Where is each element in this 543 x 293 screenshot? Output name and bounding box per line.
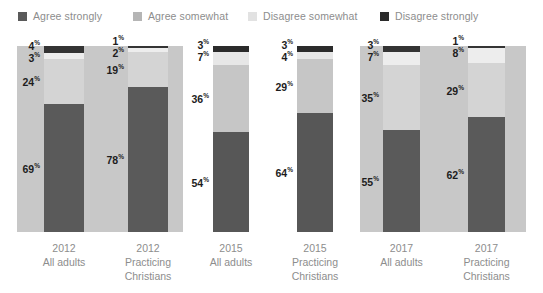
bar-caption-line: Christians [103,269,193,283]
stacked-bar[interactable] [44,46,84,232]
bar-caption: 2017All adults [357,241,447,269]
bar-caption-line: Practicing [442,255,532,269]
percent-sign: % [287,80,293,87]
segment-value: 64 [276,167,288,179]
segment-value: 69 [23,162,35,174]
segment-value-label: 4% [2,40,40,51]
segment-value-label: 36% [171,93,209,104]
legend-swatch-icon [133,12,142,21]
segment-value-label: 3% [171,39,209,50]
bar-caption-line: 2017 [442,241,532,255]
bar-caption-line: 2012 [19,241,109,255]
percent-sign: % [203,38,209,45]
bar-caption: 2015PracticingChristians [270,241,360,283]
percent-sign: % [34,39,40,46]
bar-caption: 2015All adults [186,241,276,269]
bar-segment[interactable] [213,52,249,65]
bar-segment[interactable] [213,65,249,132]
segment-value-label: 35% [341,92,379,103]
bar-segment[interactable] [44,59,84,104]
segment-value-label: 2% [86,47,124,58]
legend-swatch-icon [18,12,27,21]
bar-segment[interactable] [297,52,333,59]
stacked-bar[interactable] [297,46,333,232]
bar-segment[interactable] [44,46,84,53]
bar-caption-line: 2015 [270,241,360,255]
legend-item[interactable]: Agree somewhat [133,11,228,22]
bar-caption: 2012PracticingChristians [103,241,193,283]
bar-caption-line: All adults [186,255,276,269]
percent-sign: % [458,46,464,53]
legend-item[interactable]: Disagree strongly [380,11,478,22]
segment-value-label: 3% [341,39,379,50]
bar-caption: 2012All adults [19,241,109,269]
chart-legend: Agree stronglyAgree somewhatDisagree som… [0,0,543,34]
segment-value: 24 [23,76,35,88]
segment-value-label: 1% [426,35,464,46]
segment-value-label: 4% [255,51,293,62]
legend-label: Agree strongly [33,11,102,22]
stacked-bar[interactable] [383,46,420,232]
bar-segment[interactable] [297,59,333,113]
legend-swatch-icon [380,12,389,21]
segment-value-label: 29% [426,85,464,96]
segment-value: 19 [107,64,119,76]
percent-sign: % [34,75,40,82]
percent-sign: % [373,175,379,182]
percent-sign: % [373,91,379,98]
percent-sign: % [34,51,40,58]
bar-segment[interactable] [128,52,168,87]
bar-segment[interactable] [468,117,505,232]
segment-value-label: 78% [86,154,124,165]
bar-caption-line: 2017 [357,241,447,255]
bar-segment[interactable] [213,132,249,232]
legend-label: Disagree somewhat [263,11,358,22]
stacked-bar[interactable] [213,46,249,232]
percent-sign: % [203,92,209,99]
bar-segment[interactable] [468,63,505,117]
segment-value-label: 54% [171,177,209,188]
segment-value-label: 24% [2,76,40,87]
percent-sign: % [287,38,293,45]
percent-sign: % [118,153,124,160]
segment-value-label: 7% [341,51,379,62]
percent-sign: % [118,63,124,70]
segment-value-label: 8% [426,47,464,58]
bar-caption: 2017PracticingChristians [442,241,532,283]
percent-sign: % [458,84,464,91]
bar-segment[interactable] [297,113,333,232]
segment-value: 54 [192,176,204,188]
segment-value-label: 29% [255,81,293,92]
percent-sign: % [118,46,124,53]
bar-segment[interactable] [383,130,420,232]
legend-item[interactable]: Agree strongly [18,11,102,22]
segment-value: 29 [276,80,288,92]
bar-caption-line: All adults [357,255,447,269]
bar-caption-line: 2012 [103,241,193,255]
bar-caption-line: Practicing [270,255,360,269]
segment-value: 78 [107,154,119,166]
segment-value-label: 7% [171,51,209,62]
percent-sign: % [373,50,379,57]
segment-value: 62 [447,169,459,181]
segment-value-label: 1% [86,35,124,46]
stacked-bar[interactable] [128,46,168,232]
stacked-bar[interactable] [468,46,505,232]
legend-swatch-icon [248,12,257,21]
bar-segment[interactable] [383,52,420,65]
segment-value-label: 64% [255,167,293,178]
percent-sign: % [287,50,293,57]
legend-item[interactable]: Disagree somewhat [248,11,358,22]
segment-value-label: 3% [2,52,40,63]
segment-value-label: 62% [426,169,464,180]
segment-value-label: 69% [2,163,40,174]
bar-segment[interactable] [468,48,505,63]
segment-value: 29 [447,84,459,96]
bar-segment[interactable] [44,104,84,232]
segment-value-label: 55% [341,176,379,187]
segment-value: 55 [362,175,374,187]
bar-segment[interactable] [383,65,420,130]
bar-caption-line: Practicing [103,255,193,269]
segment-value: 36 [192,93,204,105]
bar-segment[interactable] [128,87,168,232]
